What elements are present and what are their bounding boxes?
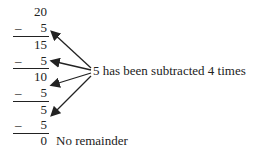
arrow-4 <box>52 76 91 115</box>
arrow-3 <box>52 73 91 85</box>
final-value: 0 <box>41 134 48 147</box>
subtract-5: 5 <box>41 118 48 132</box>
subtract-5: 5 <box>41 54 48 68</box>
minus-sign: – <box>15 118 22 132</box>
value-10: 10 <box>34 70 47 84</box>
minus-sign: – <box>15 86 22 100</box>
value-5: 5 <box>41 103 48 117</box>
minus-sign: – <box>15 54 22 68</box>
minus-sign: – <box>15 21 22 35</box>
subtract-5: 5 <box>41 86 48 100</box>
final-note: No remainder <box>56 134 128 147</box>
value-15: 15 <box>34 38 47 52</box>
annotation-text: 5 has been subtracted 4 times <box>93 64 246 78</box>
subtract-5: 5 <box>41 21 48 35</box>
value-20: 20 <box>34 5 47 19</box>
